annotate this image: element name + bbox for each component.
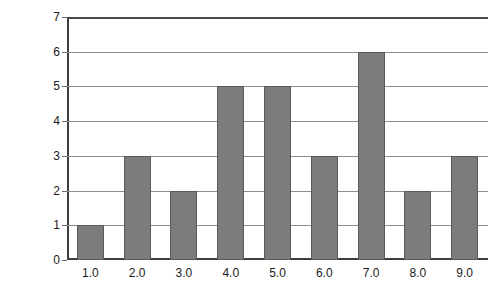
y-tick-label: 4 <box>53 114 60 128</box>
x-tick-label: 5.0 <box>269 266 286 280</box>
bar <box>124 156 151 260</box>
y-tick-label: 0 <box>53 253 60 267</box>
y-tick-label: 5 <box>53 79 60 93</box>
bar <box>77 225 104 260</box>
bars-group <box>67 17 488 260</box>
plot-area: 01234567 <box>67 17 488 260</box>
y-tick-label: 2 <box>53 184 60 198</box>
bar <box>404 191 431 260</box>
x-tick-label: 9.0 <box>456 266 473 280</box>
x-tick-label: 7.0 <box>363 266 380 280</box>
y-tick-label: 7 <box>53 10 60 24</box>
bar <box>217 86 244 260</box>
bar <box>170 191 197 260</box>
x-tick-label: 2.0 <box>129 266 146 280</box>
x-tick-label: 3.0 <box>176 266 193 280</box>
x-tick-label: 8.0 <box>409 266 426 280</box>
x-tick-label: 1.0 <box>82 266 99 280</box>
y-tick-label: 6 <box>53 45 60 59</box>
bar <box>264 86 291 260</box>
bar <box>358 52 385 260</box>
bar <box>311 156 338 260</box>
bar <box>451 156 478 260</box>
x-tick-label: 6.0 <box>316 266 333 280</box>
x-tick-label: 4.0 <box>222 266 239 280</box>
y-tick-mark <box>62 260 67 261</box>
y-tick-label: 3 <box>53 149 60 163</box>
y-tick-label: 1 <box>53 218 60 232</box>
histogram-chart: Frequency 01234567 1.02.03.04.05.06.07.0… <box>0 0 504 299</box>
